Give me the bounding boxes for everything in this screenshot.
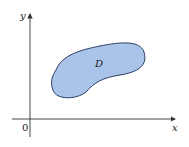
region-d (52, 43, 145, 98)
x-axis-label: x (172, 122, 178, 133)
y-axis-label: y (19, 10, 26, 21)
diagram-canvas: D y x 0 (0, 0, 189, 147)
origin-label: 0 (22, 122, 28, 133)
region-label: D (94, 58, 103, 69)
